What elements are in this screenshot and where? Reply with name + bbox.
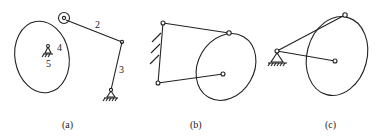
link-bottom xyxy=(158,74,223,83)
ground-pivot-icon xyxy=(268,49,287,66)
pivot-bottom xyxy=(156,81,160,85)
caption-a: (a) xyxy=(62,119,73,131)
cam-center xyxy=(333,59,337,63)
label-frame-5: 5 xyxy=(46,58,51,69)
caption-c: (c) xyxy=(325,119,336,131)
mechanism-diagram: 2 3 4 5 (a) (b) (c) xyxy=(0,0,381,136)
subfigure-b xyxy=(150,21,268,111)
pivot-top xyxy=(161,21,165,25)
label-link-2: 2 xyxy=(95,19,100,30)
cam-disk xyxy=(184,23,267,112)
roller xyxy=(343,13,347,17)
frame-bar xyxy=(158,23,163,83)
roller-outer xyxy=(59,13,70,24)
frame-hatch-icon xyxy=(150,33,161,64)
roller-pin xyxy=(62,16,65,19)
link-2 xyxy=(66,20,122,42)
cam-disk xyxy=(298,10,377,103)
link-top xyxy=(163,23,229,33)
link-upper xyxy=(277,15,345,51)
cam-center xyxy=(221,72,225,76)
subfigure-a xyxy=(9,13,123,102)
cam-disk xyxy=(9,17,75,97)
ground-pivot-icon xyxy=(103,88,118,101)
caption-b: (b) xyxy=(190,119,202,131)
subfigure-c xyxy=(268,10,376,103)
label-cam-4: 4 xyxy=(57,42,62,53)
cam-pivot-icon xyxy=(42,45,53,58)
roller xyxy=(227,31,231,35)
label-link-3: 3 xyxy=(119,64,124,75)
